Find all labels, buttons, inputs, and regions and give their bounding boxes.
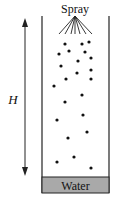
droplet-icon: [59, 64, 62, 67]
arrow-up-head-icon: [22, 18, 28, 27]
droplet-icon: [81, 113, 84, 116]
droplet-icon: [89, 56, 92, 59]
droplet-icon: [85, 130, 88, 133]
droplet-icon: [89, 166, 92, 169]
height-label: H: [7, 92, 18, 107]
droplet-icon: [72, 155, 75, 158]
spray-nozzle-icon: [59, 16, 92, 34]
droplet-icon: [80, 93, 83, 96]
spray-column-diagram: Water Spray H: [0, 0, 130, 203]
droplet-icon: [55, 160, 58, 163]
droplet-icon: [57, 52, 60, 55]
droplet-icon: [83, 50, 86, 53]
droplet-icon: [75, 71, 78, 74]
height-double-arrow-icon: [22, 18, 28, 176]
droplet-icon: [89, 68, 92, 71]
droplet-icon: [55, 118, 58, 121]
droplet-icon: [63, 42, 66, 45]
droplets: [52, 40, 92, 169]
droplet-icon: [87, 40, 90, 43]
column-walls: [42, 16, 109, 193]
droplet-icon: [80, 42, 83, 45]
droplet-icon: [89, 77, 92, 80]
droplet-icon: [52, 84, 55, 87]
spray-line: [75, 16, 86, 34]
droplet-icon: [66, 136, 69, 139]
water-label: Water: [61, 179, 89, 193]
droplet-icon: [76, 59, 79, 62]
spray-label: Spray: [61, 2, 89, 16]
droplet-icon: [63, 100, 66, 103]
droplet-icon: [64, 77, 67, 80]
arrow-down-head-icon: [22, 167, 28, 176]
droplet-icon: [67, 49, 70, 52]
